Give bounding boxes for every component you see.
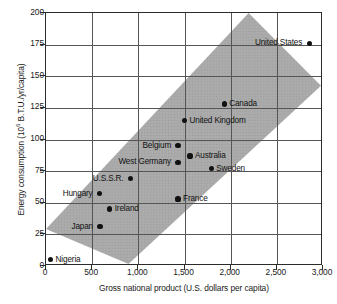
x-axis-tick-label: 3,000 <box>302 268 337 277</box>
x-axis-tick-mark <box>230 265 231 270</box>
data-point-label: Ireland <box>115 204 139 213</box>
data-point <box>187 153 192 158</box>
y-axis-title-exponent: 6 <box>15 124 21 127</box>
data-point-label: United Kingdom <box>190 116 246 125</box>
plot-area: NigeriaJapanIrelandHungaryFranceU.S.S.R.… <box>45 12 322 265</box>
gridline-vertical <box>277 13 278 264</box>
data-point-label: France <box>183 194 208 203</box>
gridline-vertical <box>231 13 232 264</box>
gridline-horizontal <box>46 171 321 172</box>
data-point <box>175 160 180 165</box>
data-point <box>209 166 214 171</box>
data-point-label: Sweden <box>216 164 245 173</box>
gridline-horizontal <box>46 140 321 141</box>
data-point-label: Japan <box>71 222 93 231</box>
data-point <box>175 196 180 201</box>
data-point-label: Belgium <box>143 141 172 150</box>
data-point-label: U.S.S.R. <box>93 174 124 183</box>
data-point <box>97 224 102 229</box>
x-axis-tick-mark <box>322 265 323 270</box>
x-axis-title: Gross national product (U.S. dollars per… <box>45 283 323 293</box>
x-axis-tick-mark <box>91 265 92 270</box>
gridline-horizontal <box>46 76 321 77</box>
data-point-label: Hungary <box>63 189 93 198</box>
data-point <box>307 41 312 46</box>
data-point-label: Australia <box>195 151 226 160</box>
data-point-label: Nigeria <box>56 255 81 264</box>
gridline-horizontal <box>46 234 321 235</box>
x-axis-tick-mark <box>184 265 185 270</box>
gridline-vertical <box>138 13 139 264</box>
x-axis-tick-mark <box>276 265 277 270</box>
x-axis-tick-mark <box>45 265 46 270</box>
data-point <box>222 101 227 106</box>
x-axis-tick-mark <box>137 265 138 270</box>
data-point <box>107 206 112 211</box>
gridline-horizontal <box>46 108 321 109</box>
data-point-label: West Germany <box>118 157 171 166</box>
data-point-label: Canada <box>229 99 257 108</box>
data-point-label: United States <box>255 38 302 47</box>
energy-vs-gnp-scatter-chart: Energy consumption (106 B.T.U./yr/capita… <box>0 0 337 304</box>
gridline-vertical <box>185 13 186 264</box>
